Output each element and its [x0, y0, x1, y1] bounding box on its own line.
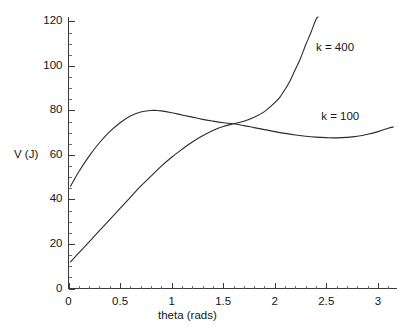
y-tick-label: 20 [21, 238, 63, 250]
x-tick-label: 1 [152, 296, 192, 308]
series-paths [71, 17, 394, 262]
x-axis-title: theta (rads) [158, 310, 217, 322]
x-tick-marks [70, 283, 389, 289]
x-tick-label: 0 [49, 296, 89, 308]
y-tick-label: 120 [21, 15, 63, 27]
axes-group [68, 17, 397, 289]
x-tick-label: 2.5 [306, 296, 346, 308]
y-tick-label: 80 [21, 104, 63, 116]
x-tick-label: 3 [358, 296, 398, 308]
y-axis-title: V (J) [14, 149, 38, 161]
x-tick-label: 2 [255, 296, 295, 308]
y-tick-label: 0 [21, 283, 63, 295]
y-tick-label: 40 [21, 193, 63, 205]
y-tick-marks [69, 22, 75, 290]
x-tick-label: 0.5 [100, 296, 140, 308]
series-annotation-k-100: k = 100 [321, 111, 359, 123]
series-annotation-k-400: k = 400 [316, 42, 354, 54]
x-tick-label: 1.5 [203, 296, 243, 308]
y-tick-label: 100 [21, 60, 63, 72]
series-curve-k-400 [71, 17, 319, 262]
chart-figure: 020406080100120 00.511.522.53 V (J) thet… [0, 0, 416, 332]
